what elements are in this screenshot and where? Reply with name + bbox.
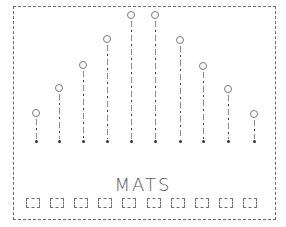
dashed-stem <box>155 21 156 139</box>
circle-node-icon <box>224 85 232 93</box>
circle-node-icon <box>250 110 258 118</box>
circle-node-icon <box>55 84 63 92</box>
mat-box-5 <box>122 198 136 208</box>
foot-dot <box>82 140 85 143</box>
foot-dot <box>179 140 182 143</box>
circle-node-icon <box>199 62 207 70</box>
foot-dot <box>202 140 205 143</box>
foot-dot <box>106 140 109 143</box>
dashed-stem <box>203 72 204 139</box>
mat-box-1 <box>26 198 40 208</box>
mat-box-4 <box>98 198 112 208</box>
mat-box-7 <box>171 198 185 208</box>
dashed-stem <box>83 71 84 139</box>
mat-box-10 <box>243 198 257 208</box>
circle-node-icon <box>32 109 40 117</box>
foot-dot <box>227 140 230 143</box>
circle-node-icon <box>151 11 159 19</box>
mat-box-6 <box>147 198 161 208</box>
dashed-stem <box>254 120 255 139</box>
dashed-stem <box>131 21 132 139</box>
circle-node-icon <box>176 36 184 44</box>
foot-dot <box>35 140 38 143</box>
dashed-stem <box>228 95 229 139</box>
foot-dot <box>154 140 157 143</box>
circle-node-icon <box>127 11 135 19</box>
foot-dot <box>130 140 133 143</box>
mat-box-3 <box>74 198 88 208</box>
foot-dot <box>253 140 256 143</box>
circle-node-icon <box>103 35 111 43</box>
mat-box-8 <box>195 198 209 208</box>
dashed-stem <box>59 94 60 139</box>
dashed-stem <box>36 119 37 139</box>
sketch-canvas: MATS <box>0 0 286 227</box>
mat-box-9 <box>219 198 233 208</box>
dashed-stem <box>180 46 181 139</box>
circle-node-icon <box>79 61 87 69</box>
foot-dot <box>58 140 61 143</box>
mat-box-2 <box>50 198 64 208</box>
mats-label: MATS <box>0 174 286 195</box>
dashed-stem <box>107 45 108 139</box>
